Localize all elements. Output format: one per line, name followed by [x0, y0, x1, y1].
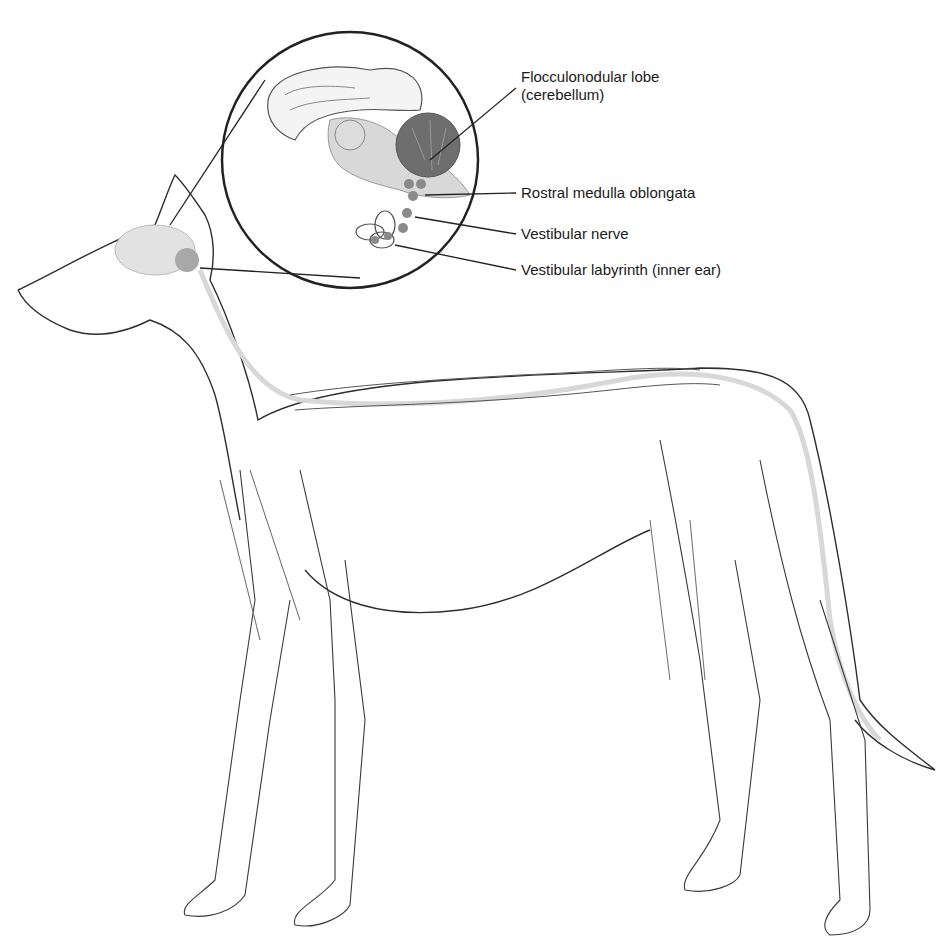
label-line: Flocculonodular lobe: [521, 68, 659, 86]
spinal-cord: [200, 270, 880, 740]
label-rostral-medulla: Rostral medulla oblongata: [521, 184, 695, 202]
label-flocculonodular-lobe: Flocculonodular lobe (cerebellum): [521, 68, 659, 104]
brain-inset: [222, 32, 478, 288]
label-vestibular-labyrinth: Vestibular labyrinth (inner ear): [521, 261, 721, 279]
dog-anatomy-illustration: [0, 0, 950, 950]
dog-legs: [184, 440, 870, 935]
label-line: (cerebellum): [521, 86, 659, 104]
label-vestibular-nerve: Vestibular nerve: [521, 225, 629, 243]
dog-brain: [115, 225, 199, 275]
